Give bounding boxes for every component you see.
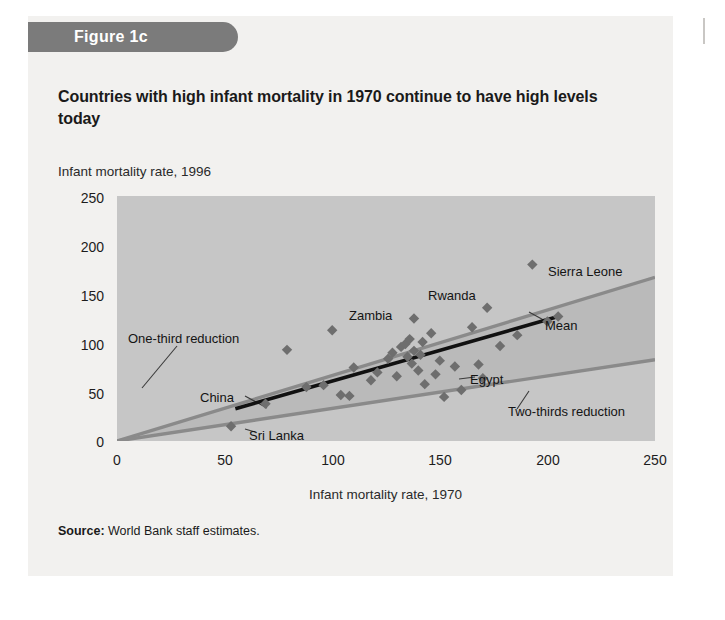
y-tick-100: 100 xyxy=(60,337,104,353)
source-label: Source: xyxy=(58,524,105,538)
figure-number-label: Figure 1c xyxy=(74,28,148,46)
data-point-marker[interactable] xyxy=(426,328,436,338)
x-tick-100: 100 xyxy=(310,452,356,468)
annotation-sri-lanka: Sri Lanka xyxy=(249,428,304,443)
source-note: Source: World Bank staff estimates. xyxy=(58,524,260,538)
x-tick-250: 250 xyxy=(632,452,678,468)
data-point-marker[interactable] xyxy=(282,345,292,355)
x-tick-150: 150 xyxy=(417,452,463,468)
annotation-one-third-reduction: One-third reduction xyxy=(128,331,239,346)
data-point-marker[interactable] xyxy=(327,325,337,335)
chart-title: Countries with high infant mortality in … xyxy=(58,86,598,130)
page-right-margin xyxy=(697,0,725,620)
y-tick-200: 200 xyxy=(60,239,104,255)
x-tick-50: 50 xyxy=(202,452,248,468)
source-text: World Bank staff estimates. xyxy=(108,524,260,538)
x-axis-title: Infant mortality rate, 1970 xyxy=(0,487,725,502)
annotation-two-thirds-reduction: Two-thirds reduction xyxy=(508,404,625,419)
y-tick-50: 50 xyxy=(60,386,104,402)
y-tick-150: 150 xyxy=(60,288,104,304)
y-tick-250: 250 xyxy=(60,190,104,206)
y-axis-title: Infant mortality rate, 1996 xyxy=(58,164,211,179)
annotation-sierra-leone: Sierra Leone xyxy=(548,264,622,279)
figure-number-banner: Figure 1c xyxy=(28,22,238,52)
annotation-egypt: Egypt xyxy=(470,372,503,387)
data-point-marker[interactable] xyxy=(527,259,537,269)
annotation-china: China xyxy=(200,390,234,405)
x-tick-0: 0 xyxy=(94,452,140,468)
leader-one-third xyxy=(142,346,177,388)
y-tick-0: 0 xyxy=(60,434,104,450)
x-axis-title-text: Infant mortality rate, 1970 xyxy=(309,487,462,502)
data-point-marker[interactable] xyxy=(482,303,492,313)
annotation-mean: Mean xyxy=(545,318,578,333)
x-tick-200: 200 xyxy=(525,452,571,468)
figure-page: Figure 1c Countries with high infant mor… xyxy=(0,0,725,620)
data-point-marker[interactable] xyxy=(409,313,419,323)
annotation-zambia: Zambia xyxy=(349,308,392,323)
page-edge-rule xyxy=(703,18,705,44)
annotation-rwanda: Rwanda xyxy=(428,288,476,303)
